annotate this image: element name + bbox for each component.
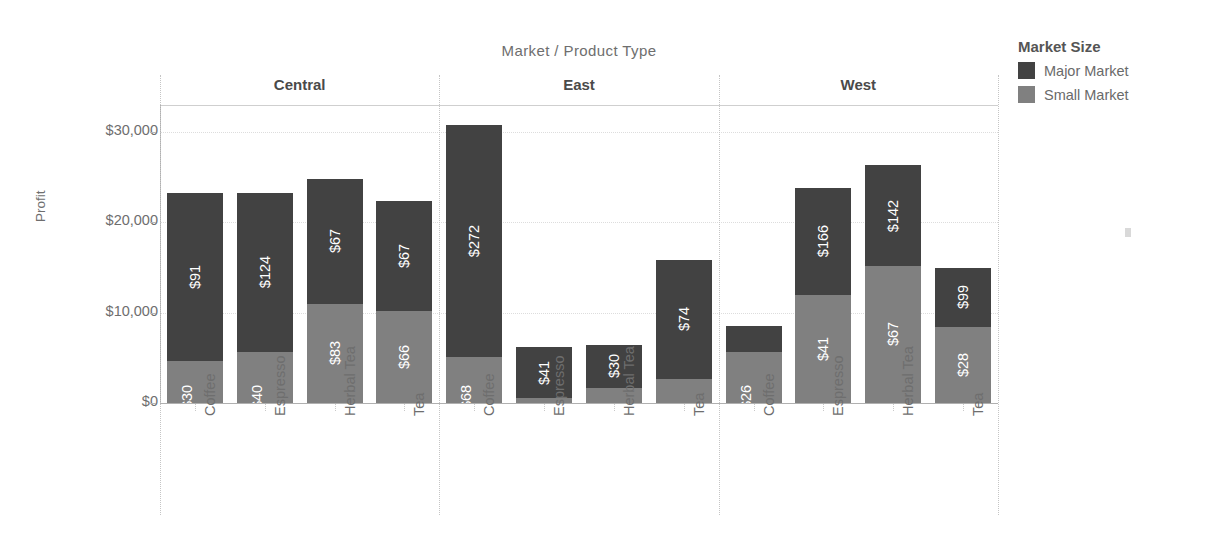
x-tick-mark [963, 404, 964, 411]
bar-segment-major-market[interactable] [726, 326, 782, 352]
bar-segment-major-market[interactable]: $166 [795, 188, 851, 295]
bar-east-coffee[interactable]: $272$68 [446, 125, 502, 403]
panel-header-central: Central [160, 76, 439, 93]
bar-value-label: $67 [885, 322, 901, 346]
bar-east-tea[interactable]: $74 [656, 260, 712, 403]
bar-value-label: $68 [458, 385, 474, 403]
bar-value-label: $124 [257, 256, 273, 288]
bar-value-label: $41 [815, 337, 831, 361]
bar-value-label: $83 [327, 341, 343, 365]
x-tick-mark [195, 404, 196, 411]
x-axis-label-tea: Tea [691, 393, 707, 416]
bar-segment-major-market[interactable]: $91 [167, 193, 223, 360]
bar-segment-major-market[interactable]: $124 [237, 193, 293, 353]
y-tick-mark-20000 [150, 222, 156, 223]
bar-value-label: $74 [676, 307, 692, 331]
bar-value-label: $30 [179, 385, 195, 403]
legend-label-small-market: Small Market [1044, 87, 1129, 103]
bar-value-label: $28 [955, 353, 971, 377]
y-tick-label-10000: $10,000 [62, 303, 158, 319]
legend-item-major-market[interactable]: Major Market [1018, 62, 1218, 79]
bar-central-tea[interactable]: $67$66 [376, 201, 432, 403]
panel-divider [719, 75, 720, 515]
y-tick-label-30000: $30,000 [62, 122, 158, 138]
gridline-30000 [160, 132, 998, 133]
chart-column-title: Market / Product Type [160, 42, 998, 59]
bar-value-label: $26 [738, 385, 754, 403]
y-tick-mark-30000 [150, 132, 156, 133]
x-axis-label-espresso: Espresso [551, 356, 567, 416]
bar-segment-major-market[interactable]: $99 [935, 268, 991, 328]
legend-label-major-market: Major Market [1044, 63, 1129, 79]
x-tick-mark [893, 404, 894, 411]
bar-segment-small-market[interactable]: $28 [935, 327, 991, 403]
bar-value-label: $99 [955, 285, 971, 309]
y-tick-mark-0 [150, 403, 156, 404]
bar-segment-major-market[interactable]: $67 [376, 201, 432, 311]
x-axis-label-coffee: Coffee [761, 374, 777, 416]
x-tick-mark [544, 404, 545, 411]
bar-segment-major-market[interactable]: $74 [656, 260, 712, 378]
x-axis-label-herbal-tea: Herbal Tea [342, 346, 358, 416]
x-tick-mark [754, 404, 755, 411]
bar-segment-major-market[interactable]: $272 [446, 125, 502, 357]
legend-title: Market Size [1018, 38, 1218, 55]
x-tick-mark [474, 404, 475, 411]
legend-swatch-major-market [1018, 62, 1035, 79]
x-tick-mark [335, 404, 336, 411]
bar-central-coffee[interactable]: $91$30 [167, 193, 223, 403]
bar-value-label: $91 [187, 265, 203, 289]
x-axis-label-herbal-tea: Herbal Tea [900, 346, 916, 416]
panel-header-west: West [719, 76, 998, 93]
bar-value-label: $40 [249, 385, 265, 403]
panel-divider [998, 75, 999, 515]
x-axis-label-tea: Tea [970, 393, 986, 416]
bar-value-label: $67 [396, 244, 412, 268]
plot-area: Central$91$30Coffee$124$40Espresso$67$83… [160, 75, 998, 405]
y-axis-ticks: $0$10,000$20,000$30,000 [46, 0, 158, 445]
bar-value-label: $142 [885, 199, 901, 231]
y-tick-mark-10000 [150, 313, 156, 314]
panel-header-east: East [439, 76, 718, 93]
bar-segment-major-market[interactable]: $67 [307, 179, 363, 304]
bar-segment-major-market[interactable]: $142 [865, 165, 921, 265]
artifact-speck [1125, 228, 1131, 237]
bar-value-label: $66 [396, 345, 412, 369]
legend-item-small-market[interactable]: Small Market [1018, 86, 1218, 103]
chart-canvas: Market / Product Type Market Size Major … [0, 0, 1227, 555]
x-axis-label-espresso: Espresso [272, 356, 288, 416]
bar-west-tea[interactable]: $99$28 [935, 268, 991, 404]
x-tick-mark [684, 404, 685, 411]
x-tick-mark [265, 404, 266, 411]
x-axis-label-tea: Tea [411, 393, 427, 416]
bar-value-label: $272 [466, 225, 482, 257]
x-axis-label-espresso: Espresso [830, 356, 846, 416]
y-tick-label-0: $0 [62, 393, 158, 409]
x-tick-mark [614, 404, 615, 411]
panel-divider [160, 75, 161, 515]
y-tick-label-20000: $20,000 [62, 212, 158, 228]
x-axis-label-herbal-tea: Herbal Tea [621, 346, 637, 416]
panel-divider [439, 75, 440, 515]
bar-value-label: $41 [536, 361, 552, 385]
bar-segment-small-market[interactable]: $66 [376, 311, 432, 403]
legend-swatch-small-market [1018, 86, 1035, 103]
bar-value-label: $67 [327, 229, 343, 253]
x-axis-label-coffee: Coffee [202, 374, 218, 416]
panel-header-rule [160, 105, 998, 106]
bar-value-label: $30 [606, 354, 622, 378]
legend: Market Size Major Market Small Market [1018, 38, 1218, 110]
x-axis-label-coffee: Coffee [481, 374, 497, 416]
bar-value-label: $166 [815, 225, 831, 257]
x-tick-mark [823, 404, 824, 411]
x-tick-mark [404, 404, 405, 411]
